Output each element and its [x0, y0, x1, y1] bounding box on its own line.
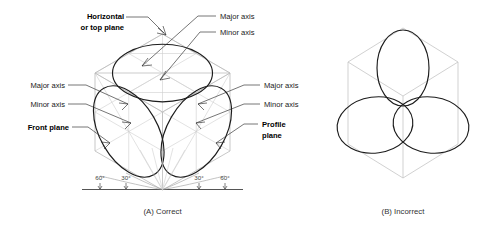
- panel-b: [333, 28, 472, 178]
- label-profile-plane-line2: plane: [262, 131, 282, 140]
- angle-baseline-group: [82, 145, 243, 190]
- label-front-plane: Front plane: [28, 123, 69, 132]
- panel-a: 60° 30° 30° 60°: [79, 34, 246, 190]
- label-profile-plane-line1: Profile: [262, 120, 286, 129]
- cube-b-outline: [348, 28, 458, 178]
- ellipse-front-plane-b: [333, 92, 416, 158]
- label-right-minor-axis: Minor axis: [264, 100, 299, 109]
- label-horizontal-plane-line1: Horizontal: [87, 12, 124, 21]
- caption-a: (A) Correct: [143, 207, 182, 216]
- label-top-major-axis: Major axis: [220, 12, 255, 21]
- angle-label-right-outer: 60°: [220, 174, 230, 181]
- caption-b: (B) Incorrect: [382, 207, 426, 216]
- label-left-minor-axis: Minor axis: [30, 100, 65, 109]
- angle-label-left-outer: 60°: [95, 174, 105, 181]
- label-top-minor-axis: Minor axis: [220, 28, 255, 37]
- label-right-major-axis: Major axis: [264, 81, 299, 90]
- angle-label-left-inner: 30°: [121, 174, 131, 181]
- angle-label-right-inner: 30°: [194, 174, 204, 181]
- ellipse-top-plane-b: [377, 30, 429, 106]
- isometric-ellipse-figure: 60° 30° 30° 60° Horizontal: [0, 0, 492, 231]
- ellipse-profile-plane-b: [389, 92, 472, 158]
- label-left-major-axis: Major axis: [30, 81, 65, 90]
- label-horizontal-plane-line2: or top plane: [81, 23, 124, 32]
